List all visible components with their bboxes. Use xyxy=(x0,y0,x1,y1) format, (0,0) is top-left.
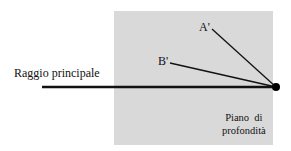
point-a-prime-label: A' xyxy=(199,20,210,35)
b-prime-ray-line xyxy=(170,63,276,87)
point-b-prime-label: B' xyxy=(158,54,168,69)
depth-plane-label-line1: Piano di xyxy=(222,111,266,124)
focal-point-dot xyxy=(272,83,280,91)
main-ray-label: Raggio principale xyxy=(14,66,100,81)
a-prime-ray-line xyxy=(212,29,276,87)
depth-plane-label: Piano di profondità xyxy=(222,111,266,137)
depth-plane-diagram: Raggio principale A' B' Piano di profond… xyxy=(0,0,291,151)
depth-plane-label-line2: profondità xyxy=(222,124,266,137)
